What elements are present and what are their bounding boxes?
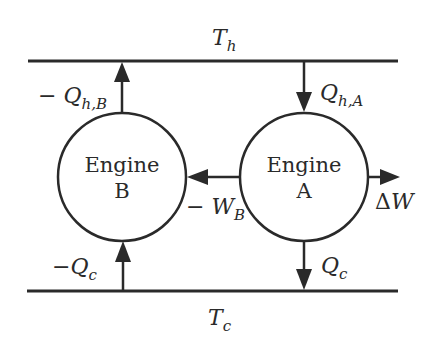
flow-label-wb: − WB (186, 194, 245, 224)
engine-b-letter: B (114, 179, 129, 203)
engine-a-letter: A (295, 179, 312, 203)
hot-reservoir-label: Th (212, 25, 236, 55)
engine-b-label: Engine (85, 153, 160, 177)
flow-label-qha: Qh,A (320, 80, 363, 110)
engine-a-circle (240, 113, 368, 241)
flow-label-qcb: −Qc (52, 254, 97, 284)
heat-engine-diagram: Th Tc Engine B Engine A − Qh,B Qh,A − WB… (0, 0, 432, 341)
arrow-right-icon (368, 169, 400, 185)
engine-b-circle (58, 113, 186, 241)
flow-label-dw: ΔW (375, 189, 416, 214)
arrow-left-icon (187, 169, 240, 185)
arrow-up-icon (114, 62, 130, 113)
flow-label-qca: Qc (321, 253, 348, 283)
cold-reservoir-label: Tc (208, 305, 232, 335)
arrow-down-icon (296, 62, 312, 112)
arrow-down-icon (296, 242, 312, 290)
arrow-up-icon (115, 241, 131, 290)
engine-a-label: Engine (267, 153, 342, 177)
flow-label-qhb: − Qh,B (38, 83, 107, 113)
